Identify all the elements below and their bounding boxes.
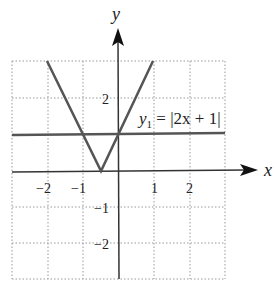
tick-x-1: 1	[151, 181, 158, 196]
tick-y-minus-1: −1	[94, 201, 109, 216]
equation-label: y1 = |2x + 1|	[137, 109, 221, 130]
series-abs-2x-plus-1	[47, 61, 153, 171]
tick-x-minus-1: −1	[71, 181, 86, 196]
tick-y-2: 2	[102, 92, 109, 107]
tick-y-minus-2: −2	[94, 237, 109, 252]
y-axis	[118, 40, 119, 279]
x-axis	[12, 170, 246, 172]
y-axis-label: y	[110, 4, 120, 24]
x-axis-label: x	[263, 160, 272, 180]
graph: y x −2 −1 1 2 2 −1 −2 y1 = |2x + 1|	[0, 0, 277, 288]
tick-x-minus-2: −2	[36, 181, 51, 196]
tick-x-2: 2	[186, 181, 193, 196]
